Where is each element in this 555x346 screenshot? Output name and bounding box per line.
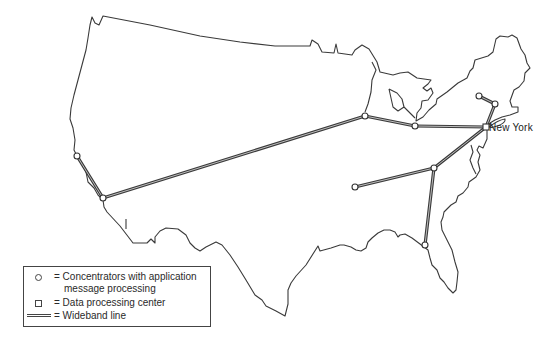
wideband-link-washington-st-louis bbox=[355, 168, 434, 187]
circle-symbol-icon bbox=[35, 274, 42, 281]
great-lakes-outline bbox=[389, 89, 415, 118]
legend-item-wideband: = Wideband line bbox=[24, 310, 126, 322]
node-atlanta bbox=[422, 242, 428, 248]
legend-item-data-center: = Data processing center bbox=[24, 297, 165, 309]
legend-item-concentrator: = Concentrators with application message… bbox=[24, 271, 197, 295]
node-st-louis bbox=[352, 184, 358, 190]
node-boston-north bbox=[476, 93, 482, 99]
chesapeake-outline bbox=[470, 145, 476, 174]
node-cleveland bbox=[412, 123, 418, 129]
node-albany bbox=[492, 101, 498, 107]
wideband-link-san-francisco-los-angeles bbox=[77, 156, 103, 198]
wideband-link-washington-atlanta bbox=[425, 168, 434, 245]
legend-label-concentrator: = Concentrators with application bbox=[54, 271, 197, 283]
wideband-link-chicago-cleveland bbox=[365, 116, 415, 126]
wideband-link-los-angeles-chicago bbox=[103, 116, 365, 198]
node-los-angeles bbox=[100, 195, 106, 201]
network-nodes bbox=[74, 93, 498, 248]
node-chicago bbox=[362, 113, 368, 119]
city-label-new-york: New York bbox=[489, 122, 533, 133]
legend-label-data-center: = Data processing center bbox=[54, 297, 165, 309]
legend-label-concentrator-cont: message processing bbox=[54, 283, 197, 295]
node-washington bbox=[431, 165, 437, 171]
map-legend: = Concentrators with application message… bbox=[23, 266, 211, 327]
wideband-line-symbol-icon bbox=[27, 314, 51, 317]
lake-michigan-outline bbox=[365, 62, 376, 112]
square-symbol-icon bbox=[35, 300, 42, 307]
node-san-francisco bbox=[74, 153, 80, 159]
legend-label-wideband: = Wideband line bbox=[54, 310, 126, 322]
